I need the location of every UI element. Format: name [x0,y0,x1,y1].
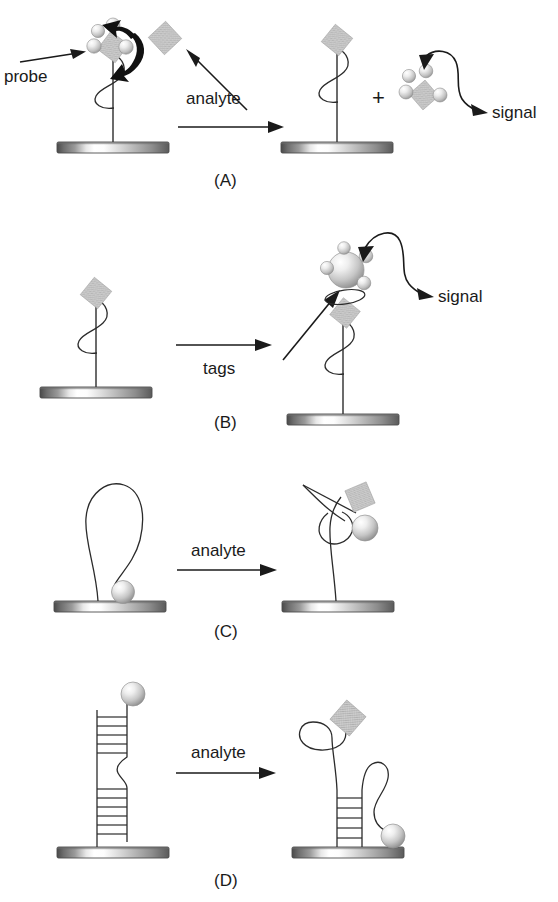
substrate-bar [57,847,169,858]
substrate-bar [281,142,393,153]
reporter-sphere [381,824,405,848]
panel-letter-c: (C) [214,622,238,641]
tag-sphere [91,24,104,37]
figure-background [0,0,558,902]
reporter-sphere [352,515,378,541]
label-analyte-c: analyte [191,541,246,560]
label-analyte-a: analyte [186,89,241,108]
tag-sphere [320,261,333,274]
label-tags: tags [203,359,235,378]
panel-letter-d: (D) [214,871,238,890]
tag-sphere [399,85,413,99]
substrate-bar [57,142,169,153]
tag-sphere [402,69,415,82]
reporter-sphere [112,581,135,604]
tag-sphere [119,40,133,54]
tag-sphere [338,242,351,255]
tag-sphere [87,39,101,53]
label-signal-b: signal [438,287,482,306]
label-probe: probe [4,67,47,86]
substrate-bar [40,387,152,398]
label-analyte-d: analyte [191,743,246,762]
reporter-sphere [121,682,145,706]
plus-sign: + [372,85,385,110]
panel-letter-a: (A) [214,171,237,190]
tag-sphere [433,88,447,102]
label-signal-a: signal [492,103,536,122]
substrate-bar [287,414,399,425]
substrate-bar [282,601,394,612]
substrate-bar [54,601,166,612]
biosensor-schematic-figure: probe analyte [0,0,558,902]
figure-root: probe analyte [0,0,558,902]
panel-letter-b: (B) [214,413,237,432]
substrate-bar [292,847,404,858]
tag-sphere [357,276,371,290]
